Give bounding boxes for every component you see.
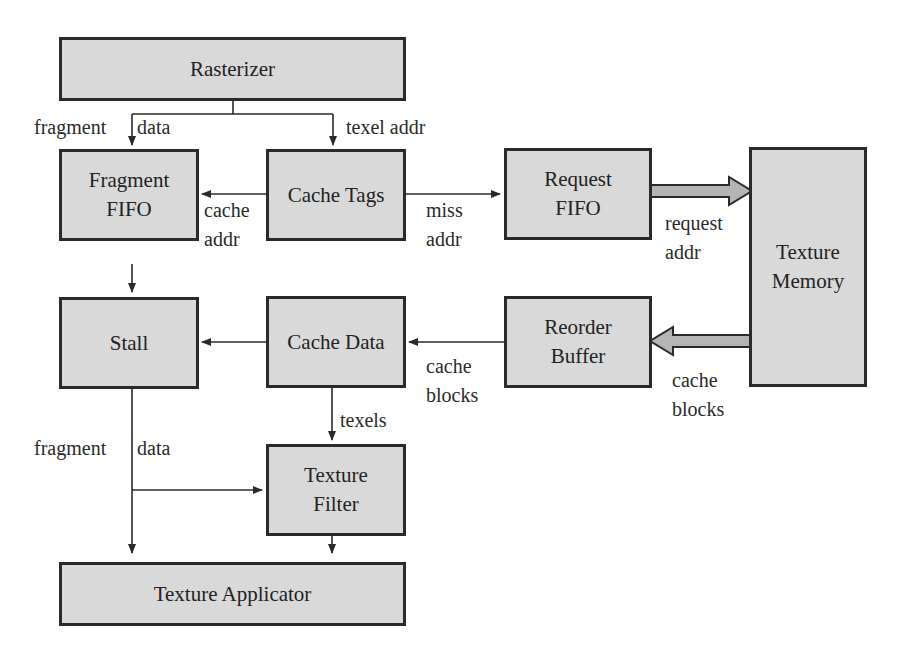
block-reorder-buffer: Reorder Buffer	[504, 296, 652, 388]
label-texel-addr: texel addr	[346, 113, 425, 142]
block-label: Rasterizer	[190, 55, 275, 84]
block-cache-data: Cache Data	[266, 296, 406, 388]
block-texture-applicator: Texture Applicator	[59, 562, 406, 626]
label-texels: texels	[340, 406, 387, 435]
texture-cache-diagram: Rasterizer Fragment FIFO Cache Tags Requ…	[0, 0, 901, 654]
block-label: Fragment FIFO	[89, 166, 169, 224]
block-texture-memory: Texture Memory	[749, 147, 867, 387]
block-label: Cache Data	[287, 328, 384, 357]
rasterizer-split-line	[132, 100, 333, 114]
block-texture-filter: Texture Filter	[266, 444, 406, 536]
block-label: Request FIFO	[544, 165, 612, 223]
block-rasterizer: Rasterizer	[59, 37, 406, 101]
block-label: Texture Applicator	[154, 580, 312, 609]
wide-arrow-cache-blocks	[650, 327, 750, 355]
label-fragment-data-bottom-2: data	[137, 434, 170, 463]
block-stall: Stall	[59, 297, 199, 389]
block-label: Stall	[110, 329, 149, 358]
block-label: Texture Filter	[304, 461, 368, 519]
label-miss-addr: miss addr	[426, 196, 463, 254]
label-fragment-data-top-2: data	[137, 113, 170, 142]
block-label: Reorder Buffer	[544, 313, 612, 371]
block-request-fifo: Request FIFO	[504, 148, 652, 240]
label-cache-blocks-reorder: cache blocks	[426, 352, 478, 410]
label-cache-blocks-memory: cache blocks	[672, 366, 724, 424]
label-fragment-data-top: fragment	[34, 113, 106, 142]
label-fragment-data-bottom: fragment	[34, 434, 106, 463]
block-label: Texture Memory	[772, 238, 844, 296]
label-request-addr: request addr	[665, 209, 723, 267]
wide-arrow-request-addr	[651, 177, 752, 205]
label-cache-addr: cache addr	[204, 196, 250, 254]
block-fragment-fifo: Fragment FIFO	[59, 149, 199, 241]
block-cache-tags: Cache Tags	[266, 149, 406, 241]
block-label: Cache Tags	[288, 181, 385, 210]
